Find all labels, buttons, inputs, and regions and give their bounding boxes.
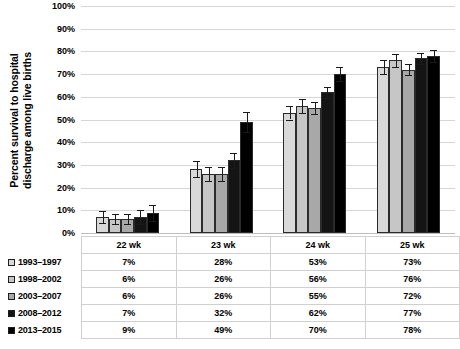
table-row: 2003–20076%26%55%72%	[0, 288, 460, 305]
bar-23-wk-1993–1997	[190, 169, 203, 233]
error-bar-cap-lower	[205, 181, 212, 182]
y-tick-label-20: 20%	[57, 184, 75, 193]
error-bar-cap-upper	[430, 50, 437, 51]
error-bar-line	[103, 211, 104, 222]
table-cell: 55%	[271, 288, 366, 305]
error-bar-line	[209, 167, 210, 182]
legend-label: 2003–2007	[18, 291, 61, 301]
error-bar-line	[315, 102, 316, 113]
table-cell: 49%	[176, 322, 271, 339]
error-bar-cap-lower	[299, 113, 306, 114]
error-bar-line	[434, 50, 435, 61]
bar-25-wk-2003–2007	[402, 70, 415, 233]
y-tick-label-70: 70%	[57, 70, 75, 79]
table-cell: 6%	[82, 271, 177, 288]
error-bar-cap-lower	[417, 64, 424, 65]
y-tick-label-60: 60%	[57, 93, 75, 102]
error-bar-cap-lower	[286, 120, 293, 121]
error-bar-cap-lower	[137, 224, 144, 225]
error-bar-cap-upper	[149, 205, 156, 206]
y-tick-label-80: 80%	[57, 47, 75, 56]
legend-label: 2013–2015	[18, 325, 61, 335]
gridline-0	[81, 233, 455, 234]
bar-24-wk-1998–2002	[296, 106, 309, 233]
error-bar-cap-upper	[124, 214, 131, 215]
legend-item-2008–2012[interactable]: 2008–2012	[0, 305, 82, 322]
table-row: 2013–20159%49%70%78%	[0, 322, 460, 339]
error-bar-line	[197, 161, 198, 177]
error-bar-cap-lower	[193, 177, 200, 178]
column-header-22-wk: 22 wk	[82, 237, 177, 254]
table-cell: 28%	[176, 254, 271, 271]
bar-25-wk-1993–1997	[377, 67, 390, 233]
table-corner-cell	[0, 237, 82, 254]
table-cell: 26%	[176, 271, 271, 288]
error-bar-line	[234, 153, 235, 168]
error-bar-line	[128, 214, 129, 224]
error-bar-cap-upper	[137, 210, 144, 211]
bar-25-wk-1998–2002	[389, 60, 402, 233]
error-bar-cap-lower	[311, 114, 318, 115]
error-bar-cap-upper	[99, 211, 106, 212]
error-bar-cap-lower	[149, 221, 156, 222]
y-tick-label-10: 10%	[57, 206, 75, 215]
error-bar-line	[140, 210, 141, 224]
error-bar-line	[153, 205, 154, 221]
bar-group-22-wk	[81, 6, 175, 233]
error-bar-cap-lower	[392, 67, 399, 68]
bar-24-wk-1993–1997	[283, 113, 296, 233]
error-bar-cap-lower	[380, 74, 387, 75]
bar-23-wk-2003–2007	[215, 174, 228, 233]
table-cell: 76%	[365, 271, 460, 288]
error-bar-line	[327, 87, 328, 98]
table-cell: 77%	[365, 305, 460, 322]
table-header-row: 22 wk23 wk24 wk25 wk	[0, 237, 460, 254]
error-bar-line	[340, 67, 341, 81]
column-header-24-wk: 24 wk	[271, 237, 366, 254]
legend-item-2003–2007[interactable]: 2003–2007	[0, 288, 82, 305]
table-cell: 26%	[176, 288, 271, 305]
legend-swatch-icon	[8, 293, 15, 300]
plot-area	[81, 6, 455, 233]
error-bar-cap-upper	[380, 60, 387, 61]
legend-item-1998–2002[interactable]: 1998–2002	[0, 271, 82, 288]
bar-23-wk-1998–2002	[202, 174, 215, 233]
error-bar-cap-lower	[99, 223, 106, 224]
legend-item-2013–2015[interactable]: 2013–2015	[0, 322, 82, 339]
bar-23-wk-2008–2012	[228, 160, 241, 233]
table-cell: 73%	[365, 254, 460, 271]
y-axis-title: Percent survival to hospital discharge a…	[0, 0, 40, 240]
legend-label: 2008–2012	[18, 308, 61, 318]
y-tick-label-40: 40%	[57, 138, 75, 147]
table-cell: 7%	[82, 254, 177, 271]
error-bar-cap-lower	[405, 75, 412, 76]
error-bar-cap-upper	[286, 106, 293, 107]
legend-label: 1998–2002	[18, 274, 61, 284]
y-axis-title-line2: discharge among live births	[20, 52, 33, 189]
legend-item-1993–1997[interactable]: 1993–1997	[0, 254, 82, 271]
y-axis-tick-labels: 100%90%80%70%60%50%40%30%20%10%0%	[40, 6, 78, 238]
error-bar-cap-upper	[392, 54, 399, 55]
error-bar-cap-upper	[218, 167, 225, 168]
legend-label: 1993–1997	[18, 257, 61, 267]
legend-swatch-icon	[8, 327, 15, 334]
legend-swatch-icon	[8, 276, 15, 283]
error-bar-line	[421, 53, 422, 64]
error-bar-cap-lower	[324, 98, 331, 99]
table-row: 2008–20127%32%62%77%	[0, 305, 460, 322]
error-bar-cap-upper	[112, 214, 119, 215]
y-tick-label-30: 30%	[57, 161, 75, 170]
table-cell: 32%	[176, 305, 271, 322]
error-bar-cap-upper	[417, 53, 424, 54]
values-table: 22 wk23 wk24 wk25 wk1993–19977%28%53%73%…	[0, 236, 460, 339]
bar-24-wk-2013–2015	[334, 74, 347, 233]
bar-25-wk-2013–2015	[427, 56, 440, 233]
table-row: 1993–19977%28%53%73%	[0, 254, 460, 271]
table-cell: 9%	[82, 322, 177, 339]
column-header-23-wk: 23 wk	[176, 237, 271, 254]
y-tick-label-100: 100%	[52, 2, 75, 11]
error-bar-cap-upper	[205, 167, 212, 168]
error-bar-line	[384, 60, 385, 74]
bar-24-wk-2003–2007	[308, 108, 321, 233]
